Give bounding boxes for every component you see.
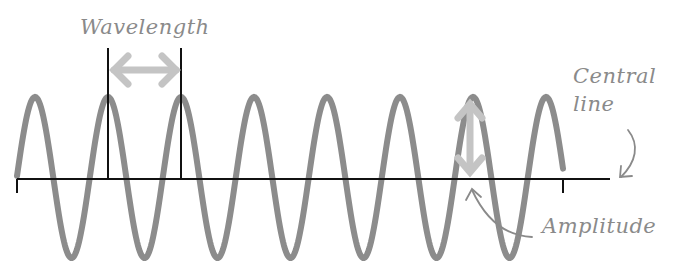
wavelength-arrow-icon	[114, 56, 176, 84]
wave-diagram: Wavelength Central line Amplitude	[0, 0, 677, 262]
wavelength-label: Wavelength	[80, 15, 210, 39]
central-line-label-1: Central	[573, 64, 656, 88]
amplitude-label: Amplitude	[542, 214, 656, 238]
central-line-label-2: line	[573, 92, 614, 116]
central-line-pointer-icon	[620, 130, 635, 177]
